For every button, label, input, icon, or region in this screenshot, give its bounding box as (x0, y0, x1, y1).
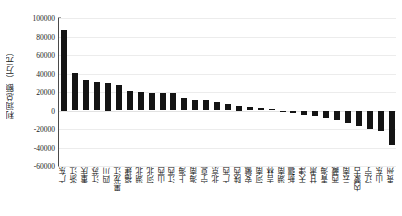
x-axis-category-label: 陕西 (234, 167, 242, 183)
y-axis-tick-label: -20000 (34, 125, 55, 134)
bar-series (59, 18, 396, 166)
bar (247, 107, 253, 111)
x-axis-category-label: 贵州 (387, 167, 395, 183)
bar (116, 85, 122, 111)
bar (170, 93, 176, 110)
plot-area (58, 18, 396, 166)
x-axis-category-label: 黑龙江 (114, 167, 122, 191)
x-axis-category-label: 浙江 (70, 167, 78, 183)
x-axis-category-label: 江苏 (92, 167, 100, 183)
x-axis-category-label: 上海 (179, 167, 187, 183)
x-axis-category-label: 江西 (168, 167, 176, 183)
x-axis-category-labels: 广东浙江重庆江苏四川黑龙江福建湖北河北山西江西上海海南宁夏北京广西陕西安徽河南吉… (58, 167, 396, 216)
y-axis-tick-label: 20000 (36, 88, 55, 97)
bar (138, 92, 144, 110)
x-axis-category-label: 河北 (147, 167, 155, 183)
bar (94, 82, 100, 110)
x-axis-category-label: 河南 (256, 167, 264, 183)
x-axis-category-label: 云南 (343, 167, 351, 183)
x-axis-category-label: 广东 (59, 167, 67, 183)
y-axis-tick-label: 40000 (36, 69, 55, 78)
x-axis-category-label: 西藏 (332, 167, 340, 183)
y-axis-tick-label: 80000 (36, 32, 55, 41)
bar (290, 111, 296, 114)
x-axis-category-label: 山西 (158, 167, 166, 183)
bar (203, 100, 209, 110)
bar (160, 93, 166, 111)
bar-chart: 利润总额（万元） 100000800006000040000200000-200… (0, 0, 402, 216)
bar (225, 104, 231, 110)
bar (378, 111, 384, 131)
y-axis-tick-label: 60000 (36, 51, 55, 60)
y-axis-tick-label: -40000 (34, 143, 55, 152)
bar (127, 91, 133, 110)
y-axis-title: 利润总额（万元） (0, 0, 22, 165)
y-axis-tick-labels: 100000800006000040000200000-20000-40000-… (20, 0, 58, 165)
bar (72, 73, 78, 111)
x-axis-category-label: 湖南 (278, 167, 286, 183)
x-axis-category-label: 甘肃 (310, 167, 318, 183)
x-axis-category-label: 海南 (190, 167, 198, 183)
bar (356, 111, 362, 127)
bar (214, 102, 220, 110)
bar (389, 111, 395, 145)
x-axis-category-label: 辽宁 (365, 167, 373, 183)
x-axis-category-label: 北京 (212, 167, 220, 183)
bar (367, 111, 373, 130)
bar (301, 111, 307, 115)
x-axis-category-label: 宁夏 (201, 167, 209, 183)
x-axis-category-label: 湖北 (136, 167, 144, 183)
x-axis-category-label: 内蒙古 (354, 167, 362, 191)
x-axis-category-label: 青海 (321, 167, 329, 183)
bar (181, 98, 187, 110)
y-axis-title-text: 利润总额（万元） (5, 47, 17, 119)
bar (323, 111, 329, 118)
y-axis-tick-label: 0 (51, 106, 55, 115)
x-axis-category-label: 吉林 (267, 167, 275, 183)
bar (258, 108, 264, 111)
bar (280, 111, 286, 112)
x-axis-category-label: 广西 (223, 167, 231, 183)
bar (105, 83, 111, 111)
bar (83, 80, 89, 111)
x-axis-category-label: 安徽 (245, 167, 253, 183)
x-axis-category-label: 福建 (125, 167, 133, 183)
x-axis-category-label: 四川 (103, 167, 111, 183)
bar (192, 100, 198, 111)
bar (269, 109, 275, 111)
bar (236, 106, 242, 111)
x-axis-category-label: 天津 (299, 167, 307, 183)
bar (61, 30, 67, 111)
bar (334, 111, 340, 120)
bar (149, 93, 155, 111)
bar (312, 111, 318, 117)
x-axis-category-label: 新疆 (288, 167, 296, 183)
bar (345, 111, 351, 123)
y-axis-tick-label: 100000 (33, 14, 56, 23)
x-axis-category-label: 山东 (376, 167, 384, 183)
y-axis-tick-label: -60000 (34, 162, 55, 171)
x-axis-category-label: 重庆 (81, 167, 89, 183)
